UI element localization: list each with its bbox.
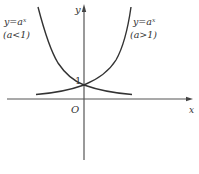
left-curve-condition: (a<1) [3, 29, 30, 40]
y-intercept-label: 1 [75, 75, 81, 86]
y-axis-label: y [74, 4, 81, 15]
right-curve-condition: (a>1) [130, 29, 157, 40]
origin-label: O [71, 104, 79, 115]
left-curve-equation: y=aˣ [3, 16, 27, 27]
y-axis-arrow-icon [82, 4, 86, 12]
curve-a-less-than-1 [38, 7, 132, 95]
x-axis-arrow-icon [186, 97, 193, 101]
right-curve-equation: y=aˣ [132, 16, 156, 27]
x-axis-label: x [189, 105, 194, 115]
exponential-graph: y x O 1 y=aˣ (a<1) y=aˣ (a>1) [0, 0, 199, 174]
